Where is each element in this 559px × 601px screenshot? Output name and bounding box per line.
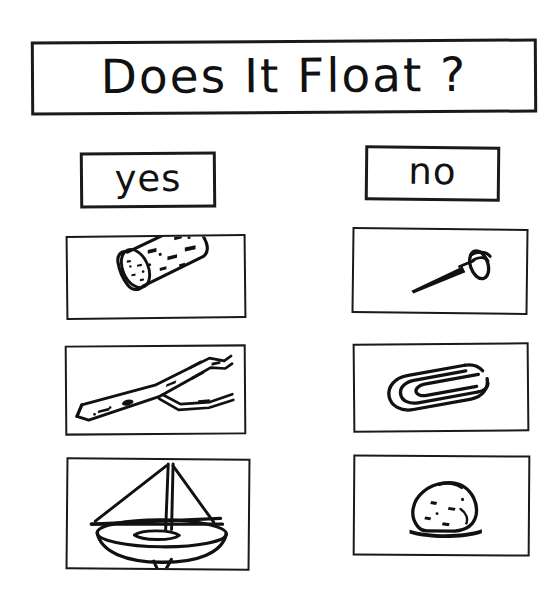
picture-cell-no-2 [353,342,530,433]
picture-cell-no-1 [351,227,528,315]
rock-icon [355,456,529,554]
paperclip-icon [355,344,528,430]
picture-cell-yes-2 [65,344,247,435]
cork-icon [68,236,245,318]
column-header-no: no [365,145,501,201]
twig-icon [67,346,245,433]
picture-cell-yes-3 [66,457,251,571]
column-header-yes-label: yes [83,152,213,203]
column-header-no-label: no [368,146,498,196]
picture-cell-yes-1 [66,234,247,320]
page-title: Does It Float ? [34,39,534,110]
worksheet-page: Does It Float ? yes no [0,0,559,601]
title-banner: Does It Float ? [31,38,537,115]
sailboat-icon [68,459,249,569]
column-header-yes: yes [80,151,216,208]
pushpin-icon [354,229,527,313]
picture-cell-no-3 [353,454,531,556]
